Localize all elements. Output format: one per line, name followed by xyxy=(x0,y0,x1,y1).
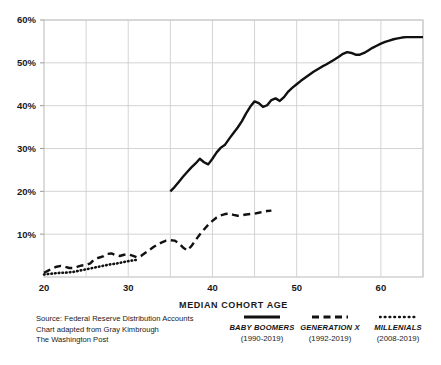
legend-item-millenials: MILLENIALS(2008-2019) xyxy=(364,312,432,343)
legend-series-name: GENERATION X xyxy=(296,323,364,332)
legend-series-years: (1992-2019) xyxy=(296,334,364,343)
legend-series-name: MILLENIALS xyxy=(364,323,432,332)
y-axis-tick-label: 40% xyxy=(17,100,37,111)
source-line-3: The Washington Post xyxy=(36,335,226,346)
y-axis-tick-label: 60% xyxy=(17,14,37,25)
x-axis-tick-label: 20 xyxy=(39,282,50,293)
x-axis-tick-label: 60 xyxy=(376,282,387,293)
chart-footer: Source: Federal Reserve Distribution Acc… xyxy=(0,306,441,365)
legend-swatch-dotted-line-icon xyxy=(364,312,432,321)
legend-item-baby-boomers: BABY BOOMERS(1990-2019) xyxy=(228,312,296,343)
legend-swatch-dashed-line-icon xyxy=(296,312,364,321)
chart-legend: BABY BOOMERS(1990-2019)GENERATION X(1992… xyxy=(228,312,434,343)
legend-series-years: (2008-2019) xyxy=(364,334,432,343)
y-axis-tick-label: 30% xyxy=(17,143,37,154)
y-axis-tick-label: 20% xyxy=(17,186,37,197)
legend-item-generation-x: GENERATION X(1992-2019) xyxy=(296,312,364,343)
source-line-2: Chart adapted from Gray Kimbrough xyxy=(36,325,226,336)
x-axis-tick-label: 30 xyxy=(123,282,134,293)
legend-swatch-solid-line-icon xyxy=(228,312,296,321)
legend-series-years: (1990-2019) xyxy=(228,334,296,343)
x-axis-tick-label: 50 xyxy=(291,282,302,293)
legend-series-name: BABY BOOMERS xyxy=(228,323,296,332)
chart-container: 10%20%30%40%50%60%2030405060MEDIAN COHOR… xyxy=(0,0,441,365)
series-line-generation-x xyxy=(44,211,271,273)
source-attribution: Source: Federal Reserve Distribution Acc… xyxy=(36,314,226,346)
y-axis-tick-label: 10% xyxy=(17,229,37,240)
y-axis-tick-label: 50% xyxy=(17,57,37,68)
x-axis-tick-label: 40 xyxy=(207,282,218,293)
source-line-1: Source: Federal Reserve Distribution Acc… xyxy=(36,314,226,325)
